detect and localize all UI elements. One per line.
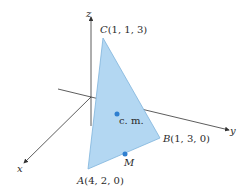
vertex-c-coords: (1, 1, 3) — [108, 24, 148, 35]
triangle-abc — [88, 38, 160, 169]
vertex-a-coords: (4, 2, 0) — [84, 175, 124, 186]
vertex-b-coords: (1, 3, 0) — [170, 133, 210, 144]
vertex-a-label: A(4, 2, 0) — [76, 175, 124, 186]
x-axis-label: x — [17, 163, 23, 174]
triangle-3d-diagram: z y x C(1, 1, 3) B(1, 3, 0) A(4, 2, 0) c… — [0, 0, 250, 190]
vertex-c-label: C(1, 1, 3) — [100, 24, 147, 35]
z-axis-label: z — [85, 8, 92, 19]
negative-y-axis — [58, 89, 91, 97]
midpoint-m-point — [123, 152, 128, 157]
vertex-b-label: B(1, 3, 0) — [162, 133, 210, 144]
center-of-mass-label: c. m. — [119, 115, 144, 126]
x-axis — [24, 97, 91, 163]
y-axis-label: y — [229, 125, 236, 136]
vertex-b-name: B — [162, 133, 170, 144]
midpoint-m-label: M — [123, 157, 135, 168]
vertex-a-name: A — [76, 175, 84, 186]
